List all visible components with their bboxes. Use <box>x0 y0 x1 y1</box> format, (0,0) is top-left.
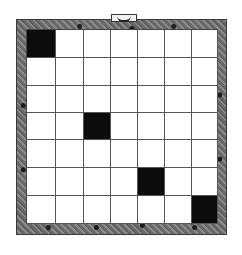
board-cell-filled[interactable] <box>84 113 111 140</box>
board-cell[interactable] <box>27 86 56 113</box>
board-cell[interactable] <box>84 86 111 113</box>
board-cell[interactable] <box>165 140 192 168</box>
board-cell[interactable] <box>165 196 192 224</box>
board-cell[interactable] <box>84 30 111 58</box>
tab-mark-icon <box>117 16 131 22</box>
board-cell[interactable] <box>111 30 138 58</box>
board-cell[interactable] <box>56 140 84 168</box>
board-cell[interactable] <box>56 86 84 113</box>
board-cell[interactable] <box>165 58 192 86</box>
board-cell[interactable] <box>165 113 192 140</box>
board-cell[interactable] <box>27 113 56 140</box>
board-cell[interactable] <box>84 140 111 168</box>
board-cell[interactable] <box>56 58 84 86</box>
board-cell[interactable] <box>56 113 84 140</box>
game-board-grid <box>26 29 217 223</box>
board-cell[interactable] <box>192 140 218 168</box>
board-cell-filled[interactable] <box>192 196 218 224</box>
board-cell[interactable] <box>165 168 192 196</box>
board-cell[interactable] <box>192 30 218 58</box>
board-cell[interactable] <box>27 196 56 224</box>
board-cell[interactable] <box>27 58 56 86</box>
board-cell[interactable] <box>84 168 111 196</box>
board-cell[interactable] <box>192 168 218 196</box>
board-cell[interactable] <box>192 58 218 86</box>
board-cell[interactable] <box>27 168 56 196</box>
board-cell-filled[interactable] <box>27 30 56 58</box>
board-cell-filled[interactable] <box>138 168 165 196</box>
board-cell[interactable] <box>138 140 165 168</box>
board-cell[interactable] <box>138 86 165 113</box>
board-cell[interactable] <box>138 196 165 224</box>
board-cell[interactable] <box>138 30 165 58</box>
board-cell[interactable] <box>138 113 165 140</box>
board-cell[interactable] <box>165 30 192 58</box>
board-cell[interactable] <box>84 58 111 86</box>
board-cell[interactable] <box>111 113 138 140</box>
board-cell[interactable] <box>56 30 84 58</box>
board-cell[interactable] <box>192 86 218 113</box>
banner-tab-icon <box>111 14 137 22</box>
board-cell[interactable] <box>111 140 138 168</box>
board-cell[interactable] <box>165 86 192 113</box>
board-cell[interactable] <box>192 113 218 140</box>
board-cell[interactable] <box>111 58 138 86</box>
board-cell[interactable] <box>111 86 138 113</box>
board-cell[interactable] <box>27 140 56 168</box>
board-cell[interactable] <box>56 168 84 196</box>
board-cell[interactable] <box>111 196 138 224</box>
board-cell[interactable] <box>56 196 84 224</box>
board-cell[interactable] <box>138 58 165 86</box>
board-cell[interactable] <box>111 168 138 196</box>
board-cell[interactable] <box>84 196 111 224</box>
